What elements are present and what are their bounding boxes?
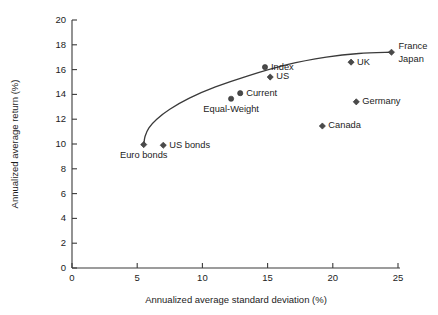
y-tick-label: 8 <box>61 163 66 174</box>
data-point-label: US bonds <box>169 140 210 150</box>
x-tick-group: 0510152025 <box>69 263 403 283</box>
data-point-marker-diamond <box>348 59 354 65</box>
data-point-marker-diamond <box>319 123 325 129</box>
x-tick-label: 15 <box>262 272 273 283</box>
x-axis-title: Annualized average standard deviation (%… <box>145 294 327 305</box>
data-point-marker-diamond <box>388 49 394 55</box>
x-tick-label: 5 <box>135 272 140 283</box>
data-point-label: Current <box>246 88 277 98</box>
y-axis-title: Annualized average return (%) <box>9 80 20 209</box>
scatter-plot-svg: 02468101214161820 0510152025 Euro bondsU… <box>0 0 438 315</box>
data-point-label: Index <box>271 62 294 72</box>
x-tick-label: 20 <box>328 272 339 283</box>
data-point-label: Euro bonds <box>120 150 168 160</box>
data-point-label: US <box>276 71 289 81</box>
y-tick-label: 4 <box>61 212 66 223</box>
x-tick-label: 10 <box>197 272 208 283</box>
y-tick-label: 10 <box>55 138 66 149</box>
data-point-marker-circle <box>262 65 267 70</box>
data-point-label: Germany <box>362 96 401 106</box>
y-tick-label: 18 <box>55 39 66 50</box>
y-tick-label: 0 <box>61 262 66 273</box>
data-point-marker-diamond <box>160 142 166 148</box>
y-tick-label: 20 <box>55 14 66 25</box>
x-tick-label: 0 <box>69 272 74 283</box>
data-point-marker-diamond <box>267 74 273 80</box>
y-tick-label: 16 <box>55 64 66 75</box>
y-tick-label: 2 <box>61 237 66 248</box>
x-tick-label: 25 <box>393 272 404 283</box>
data-point-marker-diamond <box>141 142 147 148</box>
axes-group <box>72 20 400 268</box>
data-point-label: UK <box>357 57 371 67</box>
chart-figure: 02468101214161820 0510152025 Euro bondsU… <box>0 0 438 315</box>
data-point-marker-diamond <box>353 99 359 105</box>
y-tick-label: 14 <box>55 88 66 99</box>
y-tick-label: 6 <box>61 188 66 199</box>
data-point-label: Equal-Weight <box>203 104 259 114</box>
data-point-marker-circle <box>238 91 243 96</box>
data-point-label: France <box>398 41 427 51</box>
data-point-label: Canada <box>328 120 361 130</box>
data-point-label: Japan <box>398 54 423 64</box>
data-point-marker-circle <box>228 96 233 101</box>
y-tick-label: 12 <box>55 113 66 124</box>
y-tick-group: 02468101214161820 <box>55 14 77 273</box>
data-point-group: Euro bondsUS bondsEqual-WeightCurrentInd… <box>120 41 427 160</box>
